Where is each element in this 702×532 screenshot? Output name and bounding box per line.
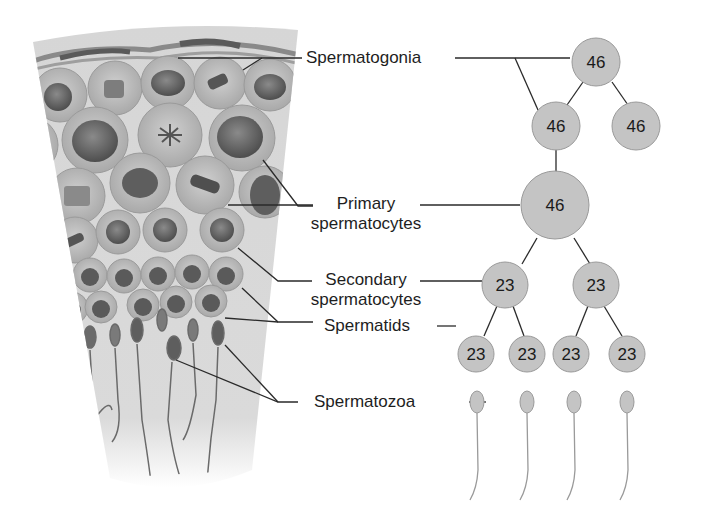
- primary-spermatocyte-cells: [2, 103, 291, 224]
- label-secondary-line1: Secondary: [312, 270, 420, 290]
- node-spermatogonia-right: 46: [612, 102, 660, 150]
- node-spermatid-1: 23: [458, 336, 494, 372]
- svg-text:23: 23: [618, 345, 637, 364]
- node-spermatogonia-left: 46: [532, 102, 580, 150]
- diagram-canvas: 46 46 46 46 23 23 23 23: [0, 0, 702, 532]
- svg-text:23: 23: [518, 345, 537, 364]
- node-spermatogonia-top: 46: [572, 38, 620, 86]
- node-spermatid-4: 23: [609, 336, 645, 372]
- label-spermatozoa: Spermatozoa: [314, 392, 415, 412]
- svg-text:46: 46: [627, 117, 646, 136]
- spermatozoon-4: [620, 391, 634, 500]
- svg-text:46: 46: [547, 117, 566, 136]
- svg-text:46: 46: [587, 53, 606, 72]
- spermatozoon-3: [567, 391, 581, 500]
- label-primary-line2: spermatocytes: [306, 214, 426, 234]
- spermatozoon-2: [520, 391, 534, 500]
- svg-text:23: 23: [562, 345, 581, 364]
- label-spermatids: Spermatids: [324, 316, 410, 336]
- node-secondary-2: 23: [573, 262, 619, 308]
- svg-text:23: 23: [496, 276, 515, 295]
- label-spermatogonia: Spermatogonia: [306, 48, 421, 68]
- node-spermatid-3: 23: [553, 336, 589, 372]
- svg-text:23: 23: [467, 345, 486, 364]
- node-primary-spermatocyte: 46: [521, 171, 589, 239]
- label-primary-line1: Primary: [312, 194, 420, 214]
- svg-text:46: 46: [546, 196, 565, 215]
- node-spermatid-2: 23: [509, 336, 545, 372]
- label-secondary-line2: spermatocytes: [306, 290, 426, 310]
- spermatozoa-nodes: [470, 391, 634, 500]
- node-secondary-1: 23: [482, 262, 528, 308]
- svg-text:23: 23: [587, 276, 606, 295]
- spermatogenesis-diagram: 46 46 46 46 23 23 23 23: [0, 0, 702, 532]
- spermatozoon-1: [470, 391, 484, 500]
